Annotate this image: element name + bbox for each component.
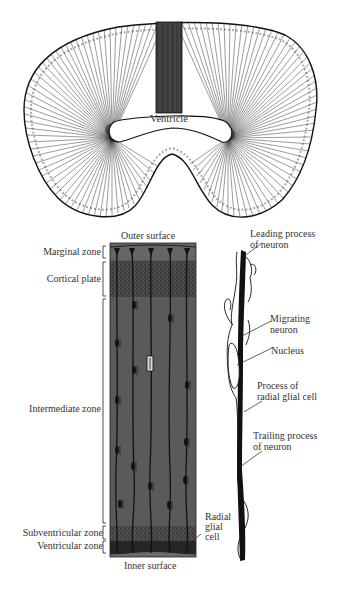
label-leading-process: Leading process of neuron [250, 228, 315, 250]
migrating-neuron-detail [0, 0, 359, 593]
glial-fiber-icon [237, 250, 246, 561]
label-glial-process: Process of radial glial cell [257, 380, 317, 402]
label-nucleus: Nucleus [271, 345, 304, 356]
label-trailing-process: Trailing process of neuron [253, 430, 317, 452]
label-migrating-neuron: Migrating neuron [270, 313, 310, 335]
